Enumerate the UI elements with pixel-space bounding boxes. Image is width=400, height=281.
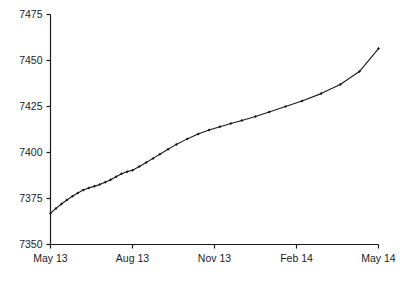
y-axis-tick-label: 7350	[19, 238, 43, 250]
x-axis-tick-label: Feb 14	[280, 252, 313, 264]
x-axis-tick-label: Aug 13	[116, 252, 149, 264]
x-axis-tick-label: May 14	[361, 252, 396, 264]
y-axis-tick-label: 7375	[19, 192, 43, 204]
x-axis-tick-label: May 13	[33, 252, 68, 264]
y-axis-tick-label: 7425	[19, 100, 43, 112]
chart-background	[0, 0, 400, 281]
y-axis-tick-label: 7450	[19, 54, 43, 66]
chart-container: 735073757400742574507475 May 13Aug 13Nov…	[0, 0, 400, 281]
x-axis-tick-label: Nov 13	[198, 252, 231, 264]
line-chart: 735073757400742574507475 May 13Aug 13Nov…	[0, 0, 400, 281]
y-axis-tick-label: 7475	[19, 8, 43, 20]
y-axis-tick-label: 7400	[19, 146, 43, 158]
